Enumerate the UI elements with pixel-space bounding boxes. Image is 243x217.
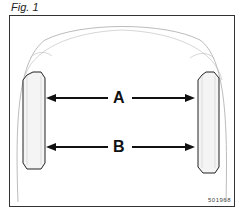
wheel-alignment-diagram — [0, 0, 243, 217]
figure-code: 501968 — [208, 197, 231, 203]
label-a: A — [113, 89, 125, 107]
left-wheel — [23, 72, 45, 169]
right-wheel — [198, 72, 219, 173]
label-b: B — [113, 138, 125, 156]
